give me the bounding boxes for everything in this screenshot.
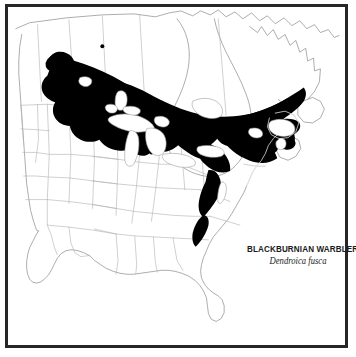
range-outlier-dot-wisconsin: [118, 143, 122, 147]
bay-of-fundy: [276, 138, 286, 149]
range-outlier-dot-north: [100, 44, 104, 48]
range-outlier-dot-newfoundland: [297, 95, 301, 99]
map-canvas: [8, 7, 345, 345]
range-outlier-dot-alberta: [63, 87, 68, 92]
map-plate-frame: BLACKBURNIAN WARBLER Dendroica fusca: [5, 4, 348, 348]
range-map-figure: BLACKBURNIAN WARBLER Dendroica fusca: [0, 0, 356, 357]
